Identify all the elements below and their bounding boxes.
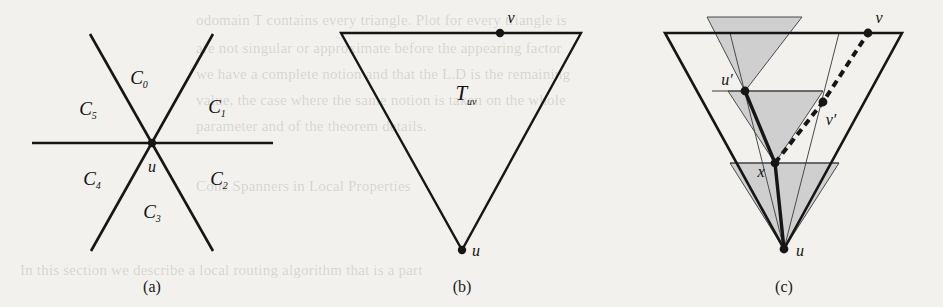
point-label-v: v: [875, 9, 883, 26]
cone-label-c3-sub: 3: [155, 213, 161, 224]
cone-label-c5-sub: 5: [92, 110, 97, 121]
panel-b-drawing: v u Tuv (b): [310, 0, 620, 307]
panel-a-caption: (a): [143, 278, 161, 296]
cone-label-c3-base: C: [143, 201, 156, 222]
panel-b: v u Tuv (b): [310, 0, 620, 307]
panel-c: v u x u′ v′ (c): [620, 0, 943, 307]
cone-label-c1-base: C: [208, 96, 221, 117]
point-v-prime-dot: [819, 98, 828, 107]
panel-c-drawing: v u x u′ v′ (c): [620, 0, 943, 307]
triangle-tuv: [341, 33, 581, 250]
panel-a-drawing: C0 C1 C2 C3 C4 C5 u (a): [0, 0, 310, 307]
point-label-v-prime: v′: [826, 111, 837, 128]
cone-label-c5-base: C: [79, 98, 92, 119]
cone-label-c1: C1: [208, 96, 226, 119]
point-label-u-text: u: [796, 242, 804, 259]
point-u-dot: [458, 246, 466, 254]
point-label-u-prime-base: u: [721, 71, 729, 88]
vertex-label-u: u: [148, 158, 156, 175]
panel-a: C0 C1 C2 C3 C4 C5 u (a): [0, 0, 310, 307]
cone-label-c3: C3: [143, 201, 161, 224]
cone-label-c4-base: C: [83, 168, 96, 189]
cone-label-c1-sub: 1: [221, 108, 226, 119]
cone-label-c2: C2: [210, 168, 228, 191]
cone-label-c4: C4: [83, 168, 101, 191]
point-v-dot: [864, 29, 873, 38]
point-label-u-prime: u′: [721, 71, 733, 88]
point-x-dot: [771, 159, 780, 168]
vertex-u-dot: [148, 139, 156, 147]
region-label-tuv-sub: uv: [467, 96, 477, 107]
region-label-tuv: Tuv: [455, 81, 477, 107]
point-v-dot: [496, 29, 504, 37]
cone-label-c0-sub: 0: [143, 79, 148, 90]
cone-label-c5: C5: [79, 98, 97, 121]
point-label-v-prime-mark: ′: [833, 111, 837, 128]
point-label-x: x: [756, 163, 764, 180]
point-label-v: v: [507, 9, 515, 26]
point-u-prime-dot: [741, 87, 750, 96]
cone-label-c0: C0: [130, 67, 148, 90]
panel-b-caption: (b): [453, 278, 472, 296]
panel-c-caption: (c): [775, 278, 793, 296]
cone-label-c2-sub: 2: [223, 180, 228, 191]
figure-root: odomain T contains every triangle. Plot …: [0, 0, 943, 307]
point-label-u: u: [472, 242, 480, 259]
point-u-dot: [780, 245, 789, 254]
cone-label-c0-base: C: [130, 67, 143, 88]
cone-label-c2-base: C: [210, 168, 223, 189]
point-label-u-prime-mark: ′: [729, 71, 733, 88]
cone-label-c4-sub: 4: [96, 180, 101, 191]
